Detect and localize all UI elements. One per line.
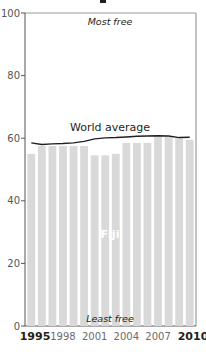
y-tick-label: 80 (7, 70, 20, 81)
bar-2008 (165, 137, 173, 326)
bar-2001 (91, 155, 99, 326)
x-tick-label: 2010 (178, 330, 206, 343)
bar-2000 (80, 146, 88, 326)
bar-2010 (186, 140, 194, 326)
least-free-annotation: Least free (86, 313, 134, 324)
x-tick-label: 2007 (145, 331, 170, 342)
bar-2005 (133, 143, 141, 326)
bar-2004 (122, 143, 130, 326)
x-axis: 199519982001200420072010 (20, 330, 206, 343)
y-tick-label: 60 (7, 133, 20, 144)
bar-1995 (27, 154, 35, 326)
y-tick-label: 100 (1, 8, 20, 19)
bar-1997 (49, 146, 57, 326)
economic-freedom-chart: 020406080100 199519982001200420072010 Mo… (0, 0, 206, 355)
x-tick-label: 1998 (50, 331, 75, 342)
fiji-label: Fiji (101, 228, 120, 241)
world-average-label: World average (70, 121, 150, 134)
y-tick-label: 40 (7, 195, 20, 206)
y-axis: 020406080100 (1, 8, 25, 332)
bar-2009 (175, 138, 183, 326)
most-free-annotation: Most free (88, 16, 133, 27)
bar-1998 (59, 146, 67, 326)
y-tick-label: 20 (7, 258, 20, 269)
bar-2007 (154, 137, 162, 326)
x-tick-label: 2001 (82, 331, 107, 342)
bar-1996 (38, 146, 46, 326)
x-tick-label: 1995 (20, 330, 51, 343)
bar-2006 (144, 143, 152, 326)
title-fragment (100, 0, 106, 3)
x-tick-label: 2004 (114, 331, 139, 342)
bar-1999 (70, 146, 78, 326)
